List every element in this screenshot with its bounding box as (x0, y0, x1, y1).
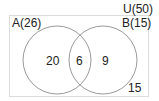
set-a-label: A(26) (12, 16, 41, 30)
region-only-b: 9 (102, 54, 109, 68)
region-only-a: 20 (46, 54, 60, 68)
set-b-label: B(15) (122, 16, 151, 30)
region-outside: 15 (128, 81, 142, 95)
venn-diagram: U(50) A(26) B(15) 20 6 9 15 (0, 0, 159, 101)
region-a-and-b: 6 (76, 54, 83, 68)
universe-label: U(50) (123, 2, 153, 16)
